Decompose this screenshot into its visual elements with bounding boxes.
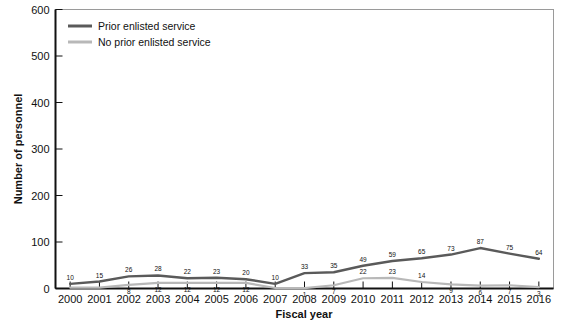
- data-point-label: 49: [359, 256, 367, 263]
- x-tick-label: 2003: [146, 293, 170, 305]
- data-point-label: 14: [418, 272, 426, 279]
- data-point-label: 75: [506, 244, 514, 251]
- data-point-label: 87: [477, 238, 485, 245]
- data-point-label: 26: [125, 266, 133, 273]
- y-tick-label: 600: [31, 4, 49, 16]
- x-axis-title: Fiscal year: [276, 308, 334, 320]
- x-tick-label: 2010: [351, 293, 375, 305]
- data-point-label: 59: [389, 251, 397, 258]
- legend-label-1: No prior enlisted service: [98, 36, 211, 48]
- data-point-label: 12: [154, 286, 162, 293]
- y-tick-label: 400: [31, 97, 49, 109]
- x-tick-label: 2005: [204, 293, 228, 305]
- x-tick-label: 2004: [175, 293, 199, 305]
- data-point-label: 22: [184, 268, 192, 275]
- line-chart-svg: 0100200300400500600 20002001200220032004…: [0, 0, 562, 326]
- data-point-label: 7: [508, 288, 512, 295]
- data-point-label: 6: [478, 289, 482, 296]
- y-tick-label: 0: [43, 283, 49, 295]
- data-point-label: 9: [449, 287, 453, 294]
- chart-figure: 0100200300400500600 20002001200220032004…: [0, 0, 562, 326]
- y-tick-label: 500: [31, 50, 49, 62]
- x-tick-label: 2011: [381, 293, 405, 305]
- legend-label-0: Prior enlisted service: [98, 20, 196, 32]
- data-point-label: 12: [213, 286, 221, 293]
- x-tick-label: 2006: [234, 293, 258, 305]
- data-point-label: 15: [96, 272, 104, 279]
- data-point-label: 8: [127, 288, 131, 295]
- data-point-label: 20: [242, 269, 250, 276]
- data-point-label: 7: [332, 288, 336, 295]
- x-tick-label: 2012: [409, 293, 433, 305]
- data-point-label: 35: [330, 262, 338, 269]
- data-point-label: 10: [272, 274, 280, 281]
- data-point-label: 64: [535, 249, 543, 256]
- data-point-label: 23: [389, 268, 397, 275]
- data-point-label: 73: [447, 245, 455, 252]
- data-point-label: 33: [301, 263, 309, 270]
- data-point-label: 23: [213, 268, 221, 275]
- data-point-label: 10: [67, 274, 75, 281]
- data-point-label: 12: [242, 286, 250, 293]
- data-point-label: 3: [537, 290, 541, 297]
- data-point-label: 1: [303, 291, 307, 298]
- data-point-label: 22: [359, 268, 367, 275]
- x-tick-label: 2007: [263, 293, 287, 305]
- data-point-label: 12: [184, 286, 192, 293]
- y-axis-title: Number of personnel: [12, 94, 24, 205]
- data-point-label: 28: [154, 265, 162, 272]
- x-tick-label: 2000: [58, 293, 82, 305]
- x-tick-label: 2001: [87, 293, 111, 305]
- y-tick-label: 200: [31, 190, 49, 202]
- y-tick-label: 300: [31, 143, 49, 155]
- data-point-label: 65: [418, 248, 426, 255]
- y-tick-label: 100: [31, 236, 49, 248]
- plot-frame: [56, 10, 554, 289]
